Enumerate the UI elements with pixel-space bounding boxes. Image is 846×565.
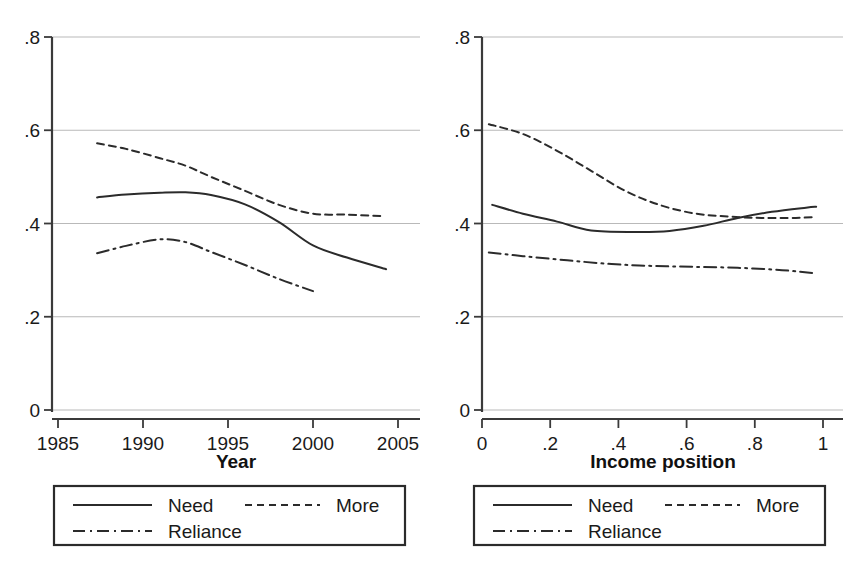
x-tick-label: 2005 [377, 433, 419, 454]
y-tick-label: .4 [454, 214, 470, 235]
y-tick-marks-income [474, 37, 482, 410]
gridlines-income [482, 37, 843, 410]
x-tick-marks-year [58, 419, 398, 428]
y-tick-label: .8 [24, 27, 40, 48]
x-tick-label: 1 [818, 433, 829, 454]
legend-label-reliance: Reliance [168, 521, 242, 542]
legend-label-more: More [756, 495, 799, 516]
legend-label-reliance: Reliance [588, 521, 662, 542]
y-tick-label: 0 [459, 400, 470, 421]
x-tick-label: 0 [477, 433, 488, 454]
series-lines-income [489, 124, 816, 273]
x-tick-label: .2 [542, 433, 558, 454]
y-tick-label: .2 [24, 307, 40, 328]
x-tick-marks-income [482, 419, 823, 428]
y-tick-label: 0 [29, 400, 40, 421]
x-tick-label: 1985 [37, 433, 79, 454]
x-axis-title-income: Income position [590, 451, 736, 472]
y-tick-label: .2 [454, 307, 470, 328]
legend-income: Need More Reliance [474, 486, 825, 545]
x-tick-label: 2000 [292, 433, 334, 454]
x-tick-label: .8 [747, 433, 763, 454]
legend-year: Need More Reliance [54, 486, 405, 545]
legend-label-need: Need [588, 495, 633, 516]
series-line-more [97, 143, 381, 216]
legend-label-need: Need [168, 495, 213, 516]
plot-area-income: 0.2.4.6.8 0.2.4.6.81 Income position Nee… [423, 0, 846, 565]
series-line-need [97, 192, 386, 269]
chart-panel-income: 0.2.4.6.8 0.2.4.6.81 Income position Nee… [423, 0, 846, 565]
y-tick-labels-year: 0.2.4.6.8 [24, 27, 40, 421]
y-tick-label: .6 [454, 120, 470, 141]
x-tick-label: 1990 [122, 433, 164, 454]
series-line-reliance [489, 252, 816, 273]
y-tick-label: .4 [24, 214, 40, 235]
series-lines-year [97, 143, 386, 291]
gridlines-year [52, 37, 420, 410]
legend-label-more: More [336, 495, 379, 516]
series-line-reliance [97, 239, 313, 291]
plot-area-year: 0.2.4.6.8 19851990199520002005 Year Need… [0, 0, 423, 565]
x-axis-title-year: Year [216, 451, 257, 472]
y-tick-label: .6 [24, 120, 40, 141]
y-tick-label: .8 [454, 27, 470, 48]
series-line-more [489, 124, 816, 218]
chart-panel-year: 0.2.4.6.8 19851990199520002005 Year Need… [0, 0, 423, 565]
figure-root: 0.2.4.6.8 19851990199520002005 Year Need… [0, 0, 846, 565]
y-tick-labels-income: 0.2.4.6.8 [454, 27, 470, 421]
y-tick-marks-year [44, 37, 52, 410]
